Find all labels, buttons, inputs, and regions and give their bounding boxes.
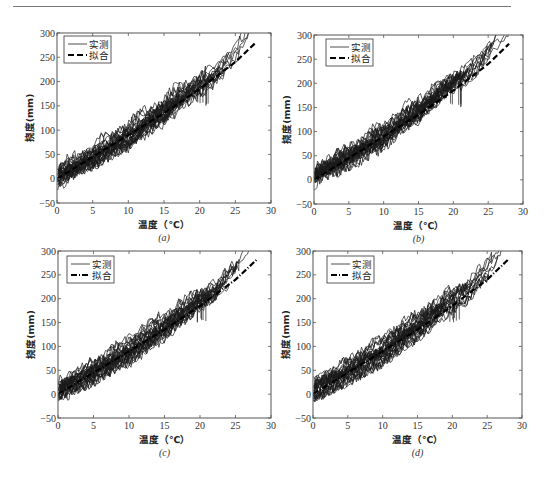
y-tick-label: 50 — [45, 149, 55, 160]
x-tick-label: 5 — [90, 205, 95, 216]
panel-caption: (c) — [159, 447, 171, 459]
subplot-b: 051015202530−50050100150200250300温度（℃）挠度… — [281, 30, 528, 246]
legend: 实测拟合 — [327, 256, 374, 283]
y-tick-label: 250 — [297, 54, 312, 65]
legend-measured-label: 实测 — [89, 39, 109, 50]
x-tick-label: 30 — [517, 420, 527, 431]
y-tick-label: 300 — [296, 246, 311, 257]
figure-canvas: 051015202530−50050100150200250300温度（℃）挠度… — [0, 0, 555, 486]
y-tick-label: −50 — [39, 198, 55, 209]
y-tick-label: 150 — [296, 317, 311, 328]
legend-measured-label: 实测 — [92, 259, 112, 270]
y-tick-label: 100 — [296, 341, 311, 352]
y-tick-label: −50 — [295, 413, 311, 424]
x-tick-label: 15 — [414, 206, 424, 217]
y-tick-label: −50 — [296, 199, 312, 210]
x-tick-label: 0 — [56, 420, 61, 431]
y-axis-title: 挠度(mm) — [281, 95, 292, 143]
y-tick-label: 200 — [296, 293, 311, 304]
y-tick-label: 200 — [41, 293, 56, 304]
x-tick-label: 20 — [195, 420, 205, 431]
y-axis-title: 挠度(mm) — [24, 94, 35, 142]
x-tick-label: 10 — [124, 420, 134, 431]
x-tick-label: 10 — [378, 420, 388, 431]
y-tick-label: 100 — [40, 125, 55, 136]
y-tick-label: 150 — [297, 102, 312, 113]
legend-measured-label: 实测 — [351, 42, 371, 53]
x-tick-label: 30 — [266, 205, 276, 216]
legend-fit-label: 拟合 — [352, 270, 372, 281]
y-tick-label: 0 — [51, 389, 56, 400]
x-tick-label: 25 — [482, 420, 492, 431]
subplot-c: 051015202530−50050100150200250300温度（℃）挠度… — [25, 237, 276, 459]
x-tick-label: 20 — [448, 206, 458, 217]
x-tick-label: 15 — [160, 420, 170, 431]
y-tick-label: 200 — [297, 78, 312, 89]
x-tick-label: 20 — [195, 205, 205, 216]
x-tick-label: 5 — [346, 206, 351, 217]
y-tick-label: 50 — [301, 365, 311, 376]
panel-caption: (a) — [158, 232, 170, 244]
legend-fit-label: 拟合 — [351, 53, 371, 64]
x-tick-label: 0 — [55, 205, 60, 216]
x-tick-label: 10 — [379, 206, 389, 217]
y-tick-label: 50 — [46, 365, 56, 376]
legend: 实测拟合 — [326, 39, 373, 66]
y-tick-label: 250 — [296, 269, 311, 280]
legend: 实测拟合 — [67, 256, 114, 283]
y-tick-label: 150 — [41, 317, 56, 328]
y-tick-label: 0 — [306, 389, 311, 400]
x-tick-label: 30 — [266, 420, 276, 431]
x-axis-title: 温度（℃） — [139, 434, 191, 445]
subplot-d: 051015202530−50050100150200250300温度（℃）挠度… — [280, 238, 527, 459]
x-axis-title: 温度（℃） — [138, 219, 190, 230]
x-tick-label: 5 — [345, 420, 350, 431]
subplot-a: 051015202530−50050100150200250300温度（℃）挠度… — [24, 19, 276, 245]
x-tick-label: 15 — [413, 420, 423, 431]
x-tick-label: 25 — [483, 206, 493, 217]
y-tick-label: 200 — [40, 76, 55, 87]
y-tick-label: 250 — [41, 269, 56, 280]
y-axis-title: 挠度(mm) — [25, 310, 36, 358]
y-tick-label: 250 — [40, 52, 55, 63]
legend-fit-label: 拟合 — [92, 270, 112, 281]
y-tick-label: 300 — [41, 246, 56, 257]
y-tick-label: −50 — [40, 413, 56, 424]
legend-fit-label: 拟合 — [89, 50, 109, 61]
x-tick-label: 0 — [311, 420, 316, 431]
y-tick-label: 50 — [302, 150, 312, 161]
x-tick-label: 25 — [231, 420, 241, 431]
x-tick-label: 30 — [518, 206, 528, 217]
y-tick-label: 300 — [297, 30, 312, 41]
y-tick-label: 300 — [40, 28, 55, 39]
y-tick-label: 150 — [40, 100, 55, 111]
y-tick-label: 0 — [307, 174, 312, 185]
panel-caption: (d) — [412, 447, 424, 459]
x-axis-title: 温度（℃） — [392, 434, 444, 445]
legend-measured-label: 实测 — [352, 259, 372, 270]
x-tick-label: 0 — [312, 206, 317, 217]
legend: 实测拟合 — [64, 36, 111, 63]
y-tick-label: 0 — [50, 173, 55, 184]
y-tick-label: 100 — [41, 341, 56, 352]
x-tick-label: 20 — [447, 420, 457, 431]
y-axis-title: 挠度(mm) — [280, 310, 291, 358]
x-axis-title: 温度（℃） — [393, 220, 445, 231]
x-tick-label: 25 — [230, 205, 240, 216]
panel-caption: (b) — [413, 233, 425, 245]
x-tick-label: 5 — [91, 420, 96, 431]
x-tick-label: 10 — [123, 205, 133, 216]
x-tick-label: 15 — [159, 205, 169, 216]
y-tick-label: 100 — [297, 126, 312, 137]
